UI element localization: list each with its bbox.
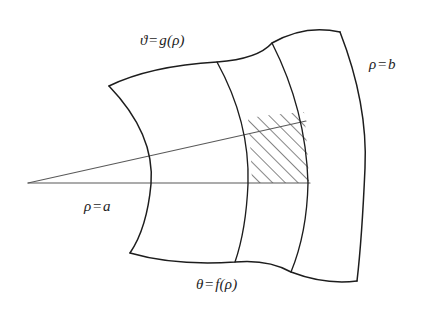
label-lower-curve: θ=f(ρ) [196,277,237,292]
label-outer-arc-op: = [376,56,388,72]
label-inner-arc-rhs: a [103,198,111,214]
region-fill [109,30,365,282]
label-outer-arc-rhs: b [388,56,396,72]
region-outline-fill [109,30,365,282]
label-inner-arc-op: = [91,198,103,214]
label-lower-curve-rhs: f(ρ) [215,276,237,292]
label-upper-curve: ϑ=g(ρ) [140,33,185,48]
label-outer-arc: ρ=b [369,57,396,72]
label-upper-curve-op: = [148,32,160,48]
label-upper-curve-lhs: ϑ [140,32,148,48]
polar-region-figure [0,0,444,311]
label-lower-curve-lhs: θ [196,276,204,292]
figure-root: ϑ=g(ρ) ρ=b ρ=a θ=f(ρ) [0,0,444,311]
label-inner-arc: ρ=a [84,199,111,214]
label-lower-curve-op: = [204,276,216,292]
label-upper-curve-rhs: g(ρ) [159,32,185,48]
